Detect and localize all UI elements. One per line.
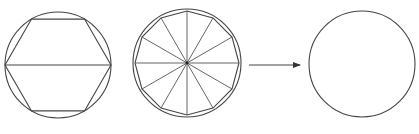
hexagon-in-circle-figure <box>5 12 111 118</box>
spoke-line <box>142 63 187 89</box>
diagram-svg <box>0 0 419 134</box>
spoke-line <box>142 37 187 63</box>
diagram-canvas <box>0 0 419 134</box>
spoke-line <box>187 63 232 89</box>
spoke-line <box>161 18 187 63</box>
dodecagon-in-circle-figure <box>133 9 241 117</box>
spoke-line <box>161 63 187 108</box>
spoke-line <box>187 18 213 63</box>
spoke-line <box>187 63 213 108</box>
center-point <box>186 62 189 65</box>
spoke-line <box>187 37 232 63</box>
circle-3-limit <box>309 11 415 117</box>
